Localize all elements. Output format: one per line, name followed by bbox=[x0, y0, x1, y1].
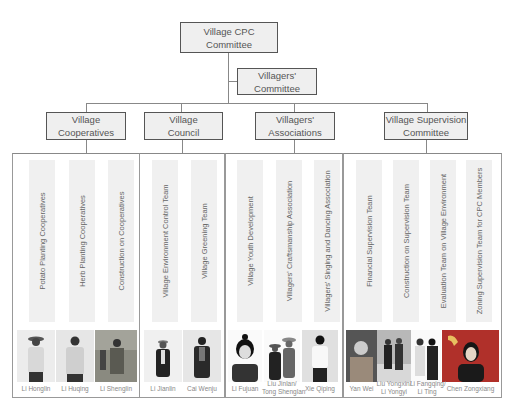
unit-label: Financial Supervision Team bbox=[365, 195, 374, 287]
box-label: Committee bbox=[203, 38, 254, 51]
unit-label: Herb Planting Cooperatives bbox=[78, 195, 87, 287]
unit-label: Zoning Supervision Team for CPC Members bbox=[475, 168, 484, 315]
unit-strip: Herb Planting Cooperatives bbox=[69, 160, 95, 322]
person-photo bbox=[442, 330, 499, 382]
unit-strip: Financial Supervision Team bbox=[356, 160, 382, 322]
person-name: Chen Zongxiang bbox=[442, 385, 499, 393]
council-panel: Village Environment Control Team Village… bbox=[139, 153, 225, 398]
village-cpc-committee-box: Village CPCCommittee bbox=[180, 22, 278, 53]
person-name: Li Fangqing/Li Ting bbox=[410, 380, 444, 396]
box-label: Council bbox=[168, 126, 200, 139]
connector-down-1 bbox=[86, 139, 87, 153]
unit-strip: Village Greening Team bbox=[191, 160, 217, 322]
person-name: Liu Jinlan/Tong Shenglan bbox=[262, 380, 302, 396]
village-supervision-committee-box: Village SupervisionCommittee bbox=[384, 112, 468, 140]
connector-drop-4 bbox=[427, 103, 428, 112]
person-name: Li Shenglin bbox=[95, 385, 137, 393]
unit-label: Village Greening Team bbox=[200, 203, 209, 279]
unit-label: Villagers' Craftsmanship Association bbox=[285, 181, 294, 302]
person-name: Li Jianlin bbox=[144, 385, 182, 393]
supervision-panel: Financial Supervision Team Construction … bbox=[343, 153, 502, 398]
person-photo bbox=[264, 330, 300, 382]
box-label: Cooperatives bbox=[58, 126, 114, 139]
person-photo bbox=[183, 330, 221, 382]
unit-label: Construction on Cooperatives bbox=[117, 192, 126, 291]
person-name: Xie Qiping bbox=[302, 385, 338, 393]
connector-down-3 bbox=[294, 139, 295, 153]
unit-strip: Village Youth Development bbox=[237, 160, 263, 322]
cooperatives-panel: Potato Planting Cooperatives Herb Planti… bbox=[12, 153, 140, 398]
box-label: Village bbox=[58, 113, 114, 126]
unit-strip: Zoning Supervision Team for CPC Members bbox=[466, 160, 492, 322]
village-council-box: VillageCouncil bbox=[144, 112, 223, 140]
box-label: Villagers' bbox=[268, 113, 321, 126]
box-label: Village CPC bbox=[203, 25, 254, 38]
box-label: Associations bbox=[268, 126, 321, 139]
connector-horizontal-level2 bbox=[86, 103, 428, 104]
unit-strip: Village Environment Control Team bbox=[152, 160, 178, 322]
village-cooperatives-box: VillageCooperatives bbox=[46, 112, 126, 140]
person-photo bbox=[346, 330, 377, 382]
unit-strip: Villagers' Singing and Dancing Associati… bbox=[314, 160, 340, 322]
person-name: Cai Wenju bbox=[183, 385, 221, 393]
unit-strip: Construction on Supervision Team bbox=[393, 160, 419, 322]
connector-down-2 bbox=[182, 139, 183, 153]
villagers-committee-box: Villagers'Committee bbox=[237, 68, 317, 95]
box-label: Village Supervision bbox=[386, 113, 467, 126]
unit-label: Villagers' Singing and Dancing Associati… bbox=[323, 170, 332, 311]
unit-label: Evaluation Team on Village Environment bbox=[439, 174, 448, 308]
person-name: Li Huqing bbox=[56, 385, 94, 393]
person-photo bbox=[302, 330, 338, 382]
connector-to-villagers-committee bbox=[228, 81, 237, 82]
connector-down-4 bbox=[426, 139, 427, 153]
person-name: Liu Yongxin/Li Yongyi bbox=[376, 380, 412, 396]
unit-strip: Villagers' Craftsmanship Association bbox=[276, 160, 302, 322]
unit-strip: Evaluation Team on Village Environment bbox=[430, 160, 456, 322]
unit-label: Village Environment Control Team bbox=[161, 184, 170, 297]
villagers-associations-box: Villagers'Associations bbox=[255, 112, 335, 140]
connector-drop-1 bbox=[86, 103, 87, 112]
connector-drop-3 bbox=[294, 103, 295, 112]
person-name: Li Fujuan bbox=[228, 385, 262, 393]
unit-label: Village Youth Development bbox=[246, 196, 255, 286]
person-photo bbox=[17, 330, 55, 382]
person-name: Li Honglin bbox=[17, 385, 55, 393]
box-label: Village bbox=[168, 113, 200, 126]
person-photo bbox=[228, 330, 262, 382]
box-label: Committee bbox=[254, 82, 300, 95]
connector-drop-2 bbox=[181, 103, 182, 112]
person-photo bbox=[95, 330, 137, 382]
box-label: Villagers' bbox=[254, 69, 300, 82]
unit-label: Potato Planting Cooperatives bbox=[38, 192, 47, 289]
connector-top-vertical bbox=[228, 52, 229, 103]
box-label: Committee bbox=[386, 126, 467, 139]
person-photo bbox=[144, 330, 182, 382]
person-photo bbox=[56, 330, 94, 382]
person-photo bbox=[377, 330, 411, 382]
unit-label: Construction on Supervision Team bbox=[402, 184, 411, 298]
associations-panel: Village Youth Development Villagers' Cra… bbox=[225, 153, 343, 398]
unit-strip: Potato Planting Cooperatives bbox=[29, 160, 55, 322]
person-photo bbox=[411, 330, 441, 382]
person-name: Yan Wei bbox=[346, 385, 377, 393]
unit-strip: Construction on Cooperatives bbox=[108, 160, 134, 322]
